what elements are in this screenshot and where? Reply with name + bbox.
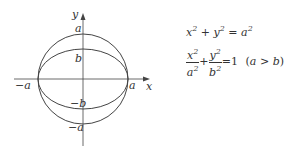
- label-a-right: a: [129, 79, 136, 92]
- eq-exp: 2: [192, 24, 197, 33]
- x-label: x: [146, 80, 153, 93]
- cond-b: b: [273, 55, 280, 68]
- label-a-top: a: [75, 22, 82, 35]
- eq-equals-one: =1: [222, 55, 238, 68]
- eq-exp: 2: [220, 24, 225, 33]
- eq-exp: 2: [248, 24, 253, 33]
- eq-equals: =: [228, 26, 237, 39]
- label-neg-a-left: −a: [15, 79, 31, 92]
- y-axis-arrow-icon: [81, 13, 86, 20]
- label-neg-b: −b: [70, 97, 86, 110]
- label-b-top: b: [75, 52, 82, 65]
- ellipse-equation: x2a2+y2b2=1 (a > b): [186, 46, 284, 78]
- fraction-x: x2a2: [186, 46, 199, 78]
- paren-close: ): [280, 55, 284, 68]
- cond-gt: >: [260, 55, 269, 68]
- y-label: y: [71, 8, 79, 21]
- label-neg-a-bottom: −a: [68, 121, 84, 134]
- eq-plus: +: [199, 55, 208, 68]
- eq-plus: +: [201, 26, 210, 39]
- circle-equation: x2 + y2 = a2: [186, 24, 253, 39]
- fraction-y: y2b2: [209, 46, 222, 78]
- cond-a: a: [250, 55, 257, 68]
